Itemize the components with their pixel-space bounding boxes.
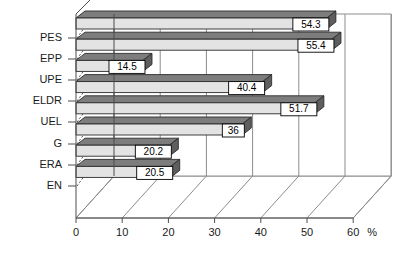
value-label-en: 20.5 <box>137 166 173 179</box>
value-label-pes: 54.3 <box>293 18 329 31</box>
x-tick-label-10: 10 <box>116 226 128 238</box>
x-axis-unit-label: % <box>367 226 377 238</box>
bar-top-face <box>76 75 272 82</box>
value-label-epp: 55.4 <box>298 39 334 52</box>
value-label-upe: 14.5 <box>109 60 145 73</box>
x-tick-label-20: 20 <box>162 226 174 238</box>
bar-front-face <box>76 124 242 135</box>
category-label-upe: UPE <box>39 73 62 85</box>
bar-top-face <box>76 117 251 124</box>
value-label-era: 20.2 <box>135 145 171 158</box>
category-label-g: G <box>53 137 62 149</box>
bar-top-face <box>76 11 336 18</box>
x-tick-label-0: 0 <box>73 226 79 238</box>
bar-top-face <box>76 32 341 39</box>
value-label-text: 55.4 <box>306 40 326 51</box>
category-label-uel: UEL <box>41 115 62 127</box>
value-label-text: 14.5 <box>117 61 137 72</box>
value-label-uel: 51.7 <box>281 103 317 116</box>
category-label-en: EN <box>47 179 62 191</box>
value-label-text: 51.7 <box>289 103 309 114</box>
value-label-g: 36 <box>222 124 244 137</box>
x-tick-label-50: 50 <box>301 226 313 238</box>
bar-top-face <box>76 159 180 166</box>
bar-front-face <box>76 103 315 114</box>
x-tick-label-60: 60 <box>347 226 359 238</box>
x-tick-label-40: 40 <box>255 226 267 238</box>
category-label-eldr: ELDR <box>33 94 62 106</box>
bar-top-face <box>76 96 324 103</box>
value-label-eldr: 40.4 <box>229 82 265 95</box>
x-axis: 0102030405060% <box>73 218 377 238</box>
value-label-text: 20.2 <box>144 146 164 157</box>
value-label-text: 40.4 <box>237 82 257 93</box>
chart-container: PESEPPUPEELDRUELGERAEN 0102030405060% 54… <box>0 0 416 258</box>
category-label-epp: EPP <box>40 52 62 64</box>
category-label-pes: PES <box>40 31 62 43</box>
bar-top-face <box>76 138 178 145</box>
value-label-text: 20.5 <box>145 167 165 178</box>
value-label-text: 54.3 <box>301 19 321 30</box>
category-label-era: ERA <box>39 158 62 170</box>
value-label-text: 36 <box>228 125 240 136</box>
bar-chart-3d: PESEPPUPEELDRUELGERAEN 0102030405060% 54… <box>0 0 416 258</box>
x-tick-label-30: 30 <box>208 226 220 238</box>
